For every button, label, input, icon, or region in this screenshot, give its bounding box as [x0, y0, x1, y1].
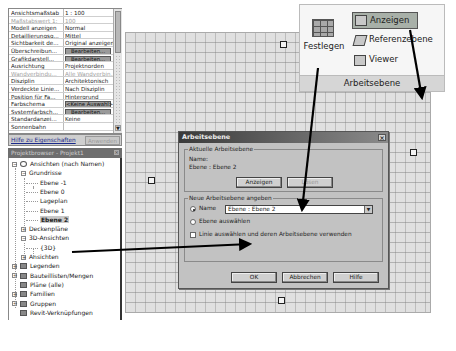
- viewer-icon: [354, 55, 366, 66]
- chevron-down-icon[interactable]: ▼: [364, 206, 372, 213]
- radio-name[interactable]: [190, 206, 196, 212]
- property-row[interactable]: Grafikdarstell...Bearbeiten...: [9, 55, 113, 63]
- viewer-button[interactable]: Viewer: [352, 53, 412, 69]
- tree-item[interactable]: {3D}: [40, 244, 56, 252]
- property-row[interactable]: Modell anzeigenNormal: [9, 24, 113, 32]
- apply-button[interactable]: Anwenden: [85, 136, 120, 145]
- festlegen-button[interactable]: Festlegen: [302, 11, 344, 65]
- tree-connector: [26, 248, 38, 249]
- property-value[interactable]: Hintergrund: [65, 93, 113, 101]
- property-row[interactable]: AusrichtungProjektnorden: [9, 62, 113, 70]
- property-value[interactable]: Alle Wandverbin...: [65, 70, 113, 78]
- help-button[interactable]: Hilfe: [333, 272, 379, 283]
- tree-item[interactable]: Legenden: [30, 262, 60, 270]
- checkbox-pick-line-label: Linie auswählen und deren Arbeitsebene v…: [199, 231, 352, 237]
- collapse-icon[interactable]: −: [21, 171, 26, 176]
- property-key: Farbschema: [11, 100, 64, 107]
- property-row[interactable]: Position für Fa...Hintergrund: [9, 93, 113, 101]
- collapse-icon[interactable]: −: [12, 162, 17, 167]
- property-value[interactable]: Keine: [65, 115, 113, 123]
- tree-item[interactable]: Ebene -1: [40, 179, 67, 187]
- property-row[interactable]: Sonnenbahn: [9, 123, 113, 131]
- property-row[interactable]: Detaillierungsg...Mittel: [9, 32, 113, 40]
- tree-connector: [24, 178, 25, 232]
- tree-item[interactable]: Deckenpläne: [29, 225, 68, 233]
- elevation-marker-east-icon[interactable]: [410, 149, 417, 156]
- property-row[interactable]: Ansichtsmaßstab1 : 100: [9, 9, 113, 17]
- tree-item[interactable]: Pläne (alle): [30, 281, 64, 289]
- property-value[interactable]: Nach Disziplin: [65, 85, 113, 93]
- properties-scrollbar[interactable]: ▼: [113, 9, 122, 133]
- tree-item[interactable]: Grundrisse: [29, 169, 62, 177]
- dialog-title: Arbeitsebene: [182, 133, 230, 141]
- ribbon-panel-title: Arbeitsebene: [300, 75, 444, 91]
- tree-item[interactable]: Ebene 0: [40, 188, 65, 196]
- elevation-marker-south-icon[interactable]: [278, 297, 285, 304]
- release-button[interactable]: Lösen: [287, 177, 333, 188]
- project-browser-title: Projektbrowser - Projekt1 ×: [8, 148, 122, 158]
- tree-item[interactable]: Familien: [30, 290, 55, 298]
- property-row[interactable]: Farbschema<Keine Auswahl>: [9, 100, 113, 108]
- property-value[interactable]: 1 : 100: [65, 9, 113, 17]
- property-row[interactable]: Verdeckte Linie...Nach Disziplin: [9, 85, 113, 93]
- property-value[interactable]: Normal: [65, 24, 113, 32]
- tree-item-label: Familien: [30, 290, 55, 297]
- referenzebene-button[interactable]: Referenzebene: [352, 33, 444, 49]
- close-icon[interactable]: ×: [378, 134, 386, 141]
- radio-name-label: Name: [199, 205, 216, 211]
- tree-item[interactable]: Bauteillisten/Mengen: [30, 272, 93, 280]
- dialog-titlebar[interactable]: Arbeitsebene ×: [179, 132, 388, 143]
- tree-item[interactable]: 3D-Ansichten: [29, 234, 69, 242]
- property-key: Detaillierungsg...: [11, 32, 64, 39]
- property-key: Ansichtsmaßstab: [11, 9, 64, 16]
- tree-item-label: 3D-Ansichten: [29, 234, 69, 241]
- tree-item[interactable]: Ansichten (nach Namen): [30, 160, 104, 168]
- property-value[interactable]: Projektnorden: [65, 62, 113, 70]
- property-row[interactable]: Maßstabswert 1:100: [9, 17, 113, 25]
- property-edit-button[interactable]: Bearbeiten...: [65, 48, 111, 55]
- anzeigen-button[interactable]: Anzeigen: [352, 12, 418, 29]
- tree-item[interactable]: Ebene 2: [40, 216, 69, 224]
- scroll-down-arrow-icon[interactable]: ▼: [115, 125, 121, 131]
- tree-item-label: Revit-Verknüpfungen: [30, 309, 93, 316]
- property-value[interactable]: Architektonisch: [65, 77, 113, 85]
- property-row[interactable]: Wandverbindu...Alle Wandverbin...: [9, 70, 113, 78]
- property-key: Ausrichtung: [11, 62, 64, 69]
- property-value[interactable]: Original anzeigen: [65, 39, 113, 47]
- property-value[interactable]: 100: [65, 17, 113, 25]
- property-row[interactable]: DisziplinArchitektonisch: [9, 77, 113, 85]
- radio-pick-plane[interactable]: [190, 219, 196, 225]
- properties-footer: Hilfe zu Eigenschaften Anwenden: [8, 134, 122, 146]
- property-edit-button[interactable]: <Keine Auswahl>: [65, 101, 111, 108]
- property-row[interactable]: Überschreibun...Bearbeiten...: [9, 47, 113, 55]
- tree-item[interactable]: Revit-Verknüpfungen: [30, 309, 93, 317]
- scrollbar-track[interactable]: [115, 55, 121, 125]
- close-icon[interactable]: ×: [114, 150, 119, 155]
- tree-item-label: {3D}: [40, 244, 56, 251]
- checkbox-pick-line[interactable]: [190, 232, 196, 238]
- tree-connector: [26, 192, 38, 193]
- ok-button[interactable]: OK: [231, 272, 277, 283]
- tree-item[interactable]: Gruppen: [30, 300, 56, 308]
- elevation-marker-north-icon[interactable]: [280, 41, 287, 48]
- scrollbar-thumb[interactable]: [115, 11, 121, 53]
- tree-item[interactable]: Ebene 1: [40, 207, 65, 215]
- property-edit-button[interactable]: Bearbeiten...: [65, 56, 111, 63]
- cancel-button[interactable]: Abbrechen: [282, 272, 328, 283]
- help-properties-link[interactable]: Hilfe zu Eigenschaften: [11, 137, 76, 143]
- property-value[interactable]: Mittel: [65, 32, 113, 40]
- collapse-icon[interactable]: −: [21, 236, 26, 241]
- workplane-name-select[interactable]: Ebene : Ebene 2 ▼: [225, 205, 373, 214]
- tree-category-icon: [20, 273, 27, 279]
- tree-item-label: Ebene -1: [40, 179, 67, 186]
- show-button[interactable]: Anzeigen: [236, 177, 282, 188]
- referenzebene-label: Referenzebene: [369, 34, 433, 44]
- property-row[interactable]: Standardanzei...Keine: [9, 115, 113, 123]
- elevation-marker-west-icon[interactable]: [148, 177, 155, 184]
- current-workplane-name: Ebene : Ebene 2: [189, 164, 236, 170]
- property-row[interactable]: Sichtbarkeit de...Original anzeigen: [9, 39, 113, 47]
- property-edit-button[interactable]: Bearbeiten...: [65, 109, 111, 116]
- radio-pick-plane-label: Ebene auswählen: [199, 218, 250, 224]
- tree-item[interactable]: Lageplan: [40, 197, 67, 205]
- property-row[interactable]: Systemfarbsch...Bearbeiten...: [9, 108, 113, 116]
